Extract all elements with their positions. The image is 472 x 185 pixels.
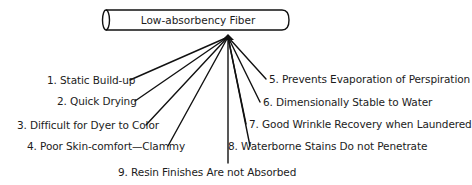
property-label-4: 4. Poor Skin-comfort—Clammy [27,140,185,152]
connector-5 [228,37,266,79]
property-label-1: 1. Static Build-up [47,74,135,86]
property-label-9: 9. Resin Finishes Are not Absorbed [118,166,296,178]
connector-1 [130,37,228,80]
property-label-6: 6. Dimensionally Stable to Water [263,96,432,108]
property-label-2: 2. Quick Drying [57,95,137,107]
property-label-7: 7. Good Wrinkle Recovery when Laundered [249,118,472,130]
fiber-title: Low-absorbency Fiber [110,13,286,27]
property-label-5: 5. Prevents Evaporation of Perspiration [269,73,470,85]
property-label-8: 8. Waterborne Stains Do not Penetrate [228,140,427,152]
property-label-3: 3. Difficult for Dyer to Color [17,119,159,131]
connector-2 [135,37,228,101]
connector-6 [228,37,260,102]
connector-7 [228,37,246,124]
